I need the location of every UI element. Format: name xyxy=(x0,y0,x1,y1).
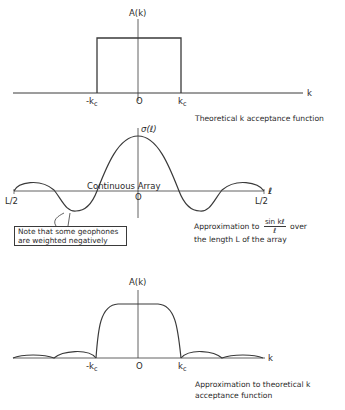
note-leader-1 xyxy=(55,213,64,226)
note-line-2: are weighted negatively xyxy=(18,237,123,246)
right-end-label: L/2 xyxy=(255,196,268,206)
caption-suffix: over xyxy=(290,222,307,231)
origin-label: O xyxy=(135,192,142,202)
top-caption: Theoretical k acceptance function xyxy=(194,114,324,123)
tick-neg-kc: -kc xyxy=(86,361,98,373)
side-lobes-left xyxy=(13,352,96,358)
x-axis-label: k xyxy=(307,88,312,98)
negative-weight-note: Note that some geophones are weighted ne… xyxy=(14,226,127,246)
middle-caption-line1: Approximation to sin kℓ ℓ over xyxy=(194,218,307,235)
panel-top: A(k) k -kc O kc Theoretical k acceptance… xyxy=(13,8,324,123)
fraction-denominator: ℓ xyxy=(264,227,286,235)
tick-pos-kc: kc xyxy=(178,361,187,373)
curve-label: Continuous Array xyxy=(87,181,161,191)
left-end-label: L/2 xyxy=(5,196,18,206)
side-lobes-right xyxy=(181,352,263,358)
middle-caption: Approximation to sin kℓ ℓ over the lengt… xyxy=(194,218,307,245)
middle-caption-line2: the length L of the array xyxy=(194,235,307,245)
boxcar-curve xyxy=(97,38,181,93)
y-axis-label: A(k) xyxy=(129,277,146,287)
figure-canvas: A(k) k -kc O kc Theoretical k acceptance… xyxy=(0,0,345,410)
caption-prefix: Approximation to xyxy=(194,222,259,231)
note-leader-2 xyxy=(68,213,70,226)
y-axis-label: A(k) xyxy=(129,8,146,18)
tick-zero: O xyxy=(136,96,143,106)
tick-neg-kc: -kc xyxy=(86,96,98,108)
bottom-caption-line1: Approximation to theoretical k xyxy=(195,380,311,389)
y-axis-label: σ(ℓ) xyxy=(141,124,157,134)
panel-bottom: A(k) k -kc O kc Approximation to theoret… xyxy=(13,277,311,400)
approx-passband-curve xyxy=(96,304,181,358)
bottom-caption-line2: acceptance function xyxy=(195,391,272,400)
sinc-fraction: sin kℓ ℓ xyxy=(264,218,286,235)
tick-zero: O xyxy=(136,361,143,371)
tick-pos-kc: kc xyxy=(178,96,187,108)
panel-middle: σ(ℓ) ℓ L/2 L/2 O Continuous Array xyxy=(5,124,272,226)
x-axis-label: k xyxy=(268,353,273,363)
x-axis-label: ℓ xyxy=(268,186,272,196)
